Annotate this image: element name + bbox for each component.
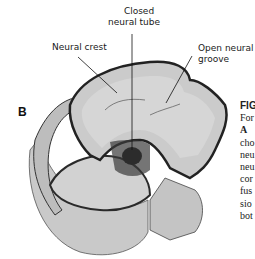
- caption-line-6: cor: [240, 173, 255, 185]
- caption-line-9: bot: [240, 210, 255, 222]
- caption-line-2: A: [240, 124, 255, 136]
- label-closed-neural-tube: Closed neural tube: [118, 6, 160, 28]
- caption-fig: FIG: [240, 100, 255, 112]
- label-neural-crest: Neural crest: [52, 42, 107, 53]
- caption-line-7: fus: [240, 185, 255, 197]
- embryo-illustration: [0, 0, 255, 259]
- caption-line-1: For: [240, 112, 255, 124]
- label-closed-line2: neural tube: [108, 17, 160, 28]
- label-open-line1: Open neural: [198, 43, 254, 54]
- caption-line-4: neu: [240, 149, 255, 161]
- panel-letter-b: B: [18, 105, 27, 119]
- label-open-line2: groove: [198, 54, 254, 65]
- lower-right-block: [150, 178, 203, 240]
- neural-tube-shadow: [110, 140, 150, 176]
- label-closed-line1: Closed: [118, 6, 160, 17]
- caption-line-3: cho: [240, 137, 255, 149]
- label-open-neural-groove: Open neural groove: [198, 43, 254, 65]
- figure-caption-fragment: FIG For A cho neu neu cor fus sio bot: [240, 100, 255, 222]
- caption-line-5: neu: [240, 161, 255, 173]
- caption-line-8: sio: [240, 198, 255, 210]
